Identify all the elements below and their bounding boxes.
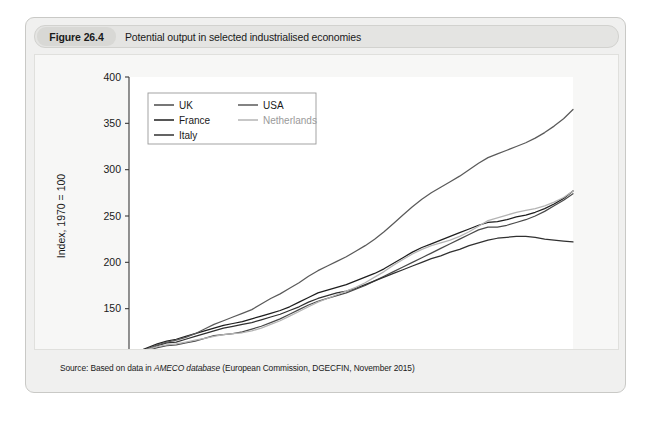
- figure-caption: Potential output in selected industriali…: [125, 27, 361, 46]
- figure-number-badge: Figure 26.4: [37, 27, 116, 46]
- y-tick-label: 400: [103, 71, 121, 83]
- source-italic: AMECO database: [154, 363, 220, 373]
- figure-title-bar: Figure 26.4 Potential output in selected…: [34, 25, 619, 48]
- y-axis-tick-labels: 100150200250300350400: [103, 71, 121, 349]
- chart-plot-panel: 100150200250300350400 197019751980198519…: [34, 54, 619, 350]
- chart-legend: UKFranceItalyUSANetherlands: [148, 93, 317, 144]
- legend-label-netherlands: Netherlands: [263, 115, 317, 126]
- line-chart: 100150200250300350400 197019751980198519…: [35, 55, 618, 349]
- source-prefix: Source: Based on data in: [60, 363, 154, 373]
- y-tick-label: 350: [103, 117, 121, 129]
- figure-source-note: Source: Based on data in AMECO database …: [60, 363, 415, 373]
- y-tick-label: 300: [103, 163, 121, 175]
- y-tick-label: 150: [103, 302, 121, 314]
- y-tick-label: 200: [103, 256, 121, 268]
- source-suffix: (European Commission, DGECFIN, November …: [220, 363, 415, 373]
- legend-label-italy: Italy: [179, 130, 197, 141]
- y-axis-title: Index, 1970 = 100: [55, 174, 67, 259]
- legend-label-usa: USA: [263, 100, 284, 111]
- legend-label-uk: UK: [179, 100, 193, 111]
- figure-card: Figure 26.4 Potential output in selected…: [25, 17, 626, 393]
- legend-label-france: France: [179, 115, 211, 126]
- y-tick-label: 250: [103, 210, 121, 222]
